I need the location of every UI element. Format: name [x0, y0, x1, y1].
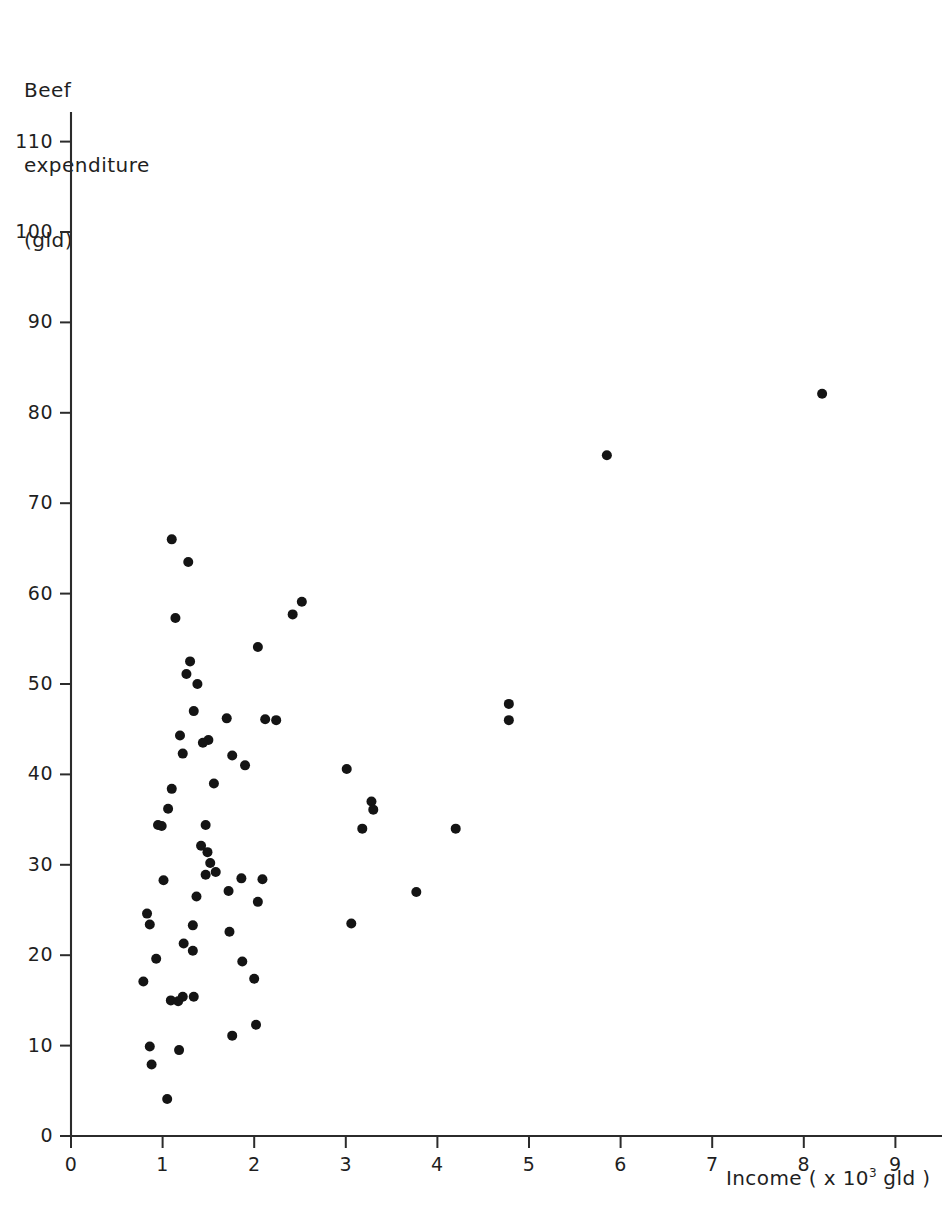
data-point	[188, 946, 198, 956]
data-point	[138, 976, 148, 986]
data-point	[201, 870, 211, 880]
data-point	[170, 613, 180, 623]
data-point	[251, 1020, 261, 1030]
data-point	[205, 858, 215, 868]
data-point	[163, 804, 173, 814]
data-point	[167, 534, 177, 544]
data-point	[151, 954, 161, 964]
data-point	[145, 1042, 155, 1052]
data-point	[191, 891, 201, 901]
data-point	[504, 699, 514, 709]
data-point	[222, 713, 232, 723]
data-point	[189, 706, 199, 716]
data-point	[504, 715, 514, 725]
data-points-group	[138, 389, 827, 1104]
data-point	[159, 875, 169, 885]
data-point	[451, 824, 461, 834]
data-point	[174, 1045, 184, 1055]
data-point	[602, 450, 612, 460]
data-point	[297, 597, 307, 607]
data-point	[253, 897, 263, 907]
y-tick-label: 50	[0, 672, 53, 694]
y-tick-label: 20	[0, 943, 53, 965]
data-point	[189, 992, 199, 1002]
y-tick-label: 70	[0, 491, 53, 513]
x-tick-label: 2	[224, 1153, 284, 1175]
data-point	[209, 778, 219, 788]
data-point	[227, 1031, 237, 1041]
y-tick-marks	[60, 142, 71, 1136]
data-point	[368, 805, 378, 815]
data-point	[288, 609, 298, 619]
y-tick-label: 10	[0, 1034, 53, 1056]
x-tick-label: 6	[591, 1153, 651, 1175]
data-point	[179, 938, 189, 948]
data-point	[411, 887, 421, 897]
data-point	[260, 714, 270, 724]
x-tick-label: 4	[407, 1153, 467, 1175]
x-tick-label: 3	[316, 1153, 376, 1175]
data-point	[240, 760, 250, 770]
data-point	[181, 669, 191, 679]
x-tick-label: 9	[865, 1153, 925, 1175]
data-point	[178, 749, 188, 759]
x-tick-label: 0	[41, 1153, 101, 1175]
y-tick-label: 90	[0, 310, 53, 332]
y-tick-label: 0	[0, 1124, 53, 1146]
data-point	[257, 874, 267, 884]
y-tick-label: 40	[0, 762, 53, 784]
y-tick-label: 30	[0, 853, 53, 875]
x-tick-label: 8	[774, 1153, 834, 1175]
data-point	[198, 738, 208, 748]
x-tick-label: 1	[133, 1153, 193, 1175]
data-point	[192, 679, 202, 689]
data-point	[237, 957, 247, 967]
data-point	[271, 715, 281, 725]
data-point	[224, 927, 234, 937]
x-tick-label: 7	[682, 1153, 742, 1175]
data-point	[211, 867, 221, 877]
x-tick-label: 5	[499, 1153, 559, 1175]
data-point	[173, 996, 183, 1006]
x-tick-marks	[71, 1136, 895, 1148]
scatter-plot-figure: Beef expenditure (gld) Income ( x 103 gl…	[0, 0, 950, 1209]
data-point	[185, 656, 195, 666]
data-point	[145, 919, 155, 929]
data-point	[162, 1094, 172, 1104]
data-point	[342, 764, 352, 774]
data-point	[249, 974, 259, 984]
data-point	[357, 824, 367, 834]
data-point	[253, 642, 263, 652]
y-tick-label: 110	[0, 130, 53, 152]
data-point	[188, 920, 198, 930]
data-point	[346, 919, 356, 929]
data-point	[224, 886, 234, 896]
data-point	[183, 557, 193, 567]
data-point	[147, 1060, 157, 1070]
data-point	[236, 873, 246, 883]
y-tick-label: 60	[0, 582, 53, 604]
data-point	[175, 731, 185, 741]
data-point	[202, 847, 212, 857]
y-tick-label: 100	[0, 220, 53, 242]
data-point	[227, 750, 237, 760]
axes-group	[71, 112, 942, 1136]
data-point	[817, 389, 827, 399]
data-point	[167, 784, 177, 794]
y-tick-label: 80	[0, 401, 53, 423]
data-point	[201, 820, 211, 830]
plot-canvas	[0, 0, 950, 1209]
data-point	[142, 909, 152, 919]
data-point	[157, 821, 167, 831]
